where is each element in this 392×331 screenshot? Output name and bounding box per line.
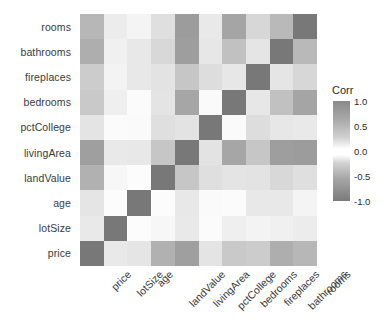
y-axis-tick-pctcollege: pctCollege bbox=[0, 115, 76, 140]
colorbar-title: Corr bbox=[332, 84, 353, 96]
heatmap-cell bbox=[199, 216, 223, 241]
heatmap-cell bbox=[199, 64, 223, 89]
y-axis-tick-bathrooms: bathrooms bbox=[0, 39, 76, 64]
x-axis-tick-rooms: rooms bbox=[324, 268, 353, 297]
heatmap-cell bbox=[127, 39, 151, 64]
heatmap-cell bbox=[222, 90, 246, 115]
y-axis-tick-lotsize: lotSize bbox=[0, 216, 76, 241]
heatmap-cell bbox=[199, 14, 223, 39]
heatmap-cell bbox=[270, 64, 294, 89]
heatmap-cell bbox=[222, 39, 246, 64]
heatmap-cell bbox=[175, 14, 199, 39]
heatmap-cell bbox=[293, 241, 317, 266]
heatmap-cell bbox=[151, 14, 175, 39]
heatmap-cell bbox=[293, 90, 317, 115]
heatmap-cell bbox=[80, 190, 104, 215]
heatmap-cell bbox=[104, 190, 128, 215]
y-axis-tick-livingarea: livingArea bbox=[0, 140, 76, 165]
heatmap-cell bbox=[80, 115, 104, 140]
heatmap-cell bbox=[80, 165, 104, 190]
heatmap-cell bbox=[270, 241, 294, 266]
heatmap-cell bbox=[270, 165, 294, 190]
heatmap-cell bbox=[151, 241, 175, 266]
colorbar-tick-labels: 1.00.50.0-0.5-1.0 bbox=[353, 101, 387, 201]
heatmap-cell bbox=[270, 190, 294, 215]
heatmap-cell bbox=[104, 140, 128, 165]
heatmap-cell bbox=[104, 90, 128, 115]
colorbar-tick: -1.0 bbox=[354, 196, 370, 207]
heatmap-cell bbox=[127, 90, 151, 115]
heatmap-cell bbox=[175, 216, 199, 241]
heatmap-cell bbox=[222, 165, 246, 190]
heatmap-cell bbox=[127, 115, 151, 140]
heatmap-cell bbox=[222, 190, 246, 215]
heatmap-cell bbox=[246, 165, 270, 190]
y-axis-tick-fireplaces: fireplaces bbox=[0, 64, 76, 89]
heatmap-cell bbox=[199, 140, 223, 165]
colorbar-tick: 1.0 bbox=[354, 96, 367, 107]
heatmap-cell bbox=[151, 216, 175, 241]
heatmap-cell bbox=[104, 241, 128, 266]
colorbar-tick: 0.0 bbox=[354, 146, 367, 157]
heatmap-cell bbox=[175, 64, 199, 89]
heatmap-cell bbox=[175, 190, 199, 215]
heatmap-cell bbox=[80, 241, 104, 266]
heatmap-cell bbox=[127, 64, 151, 89]
y-axis-tick-price: price bbox=[0, 241, 76, 266]
heatmap-cell bbox=[175, 90, 199, 115]
heatmap-cell bbox=[151, 115, 175, 140]
heatmap-cell bbox=[104, 39, 128, 64]
colorbar-gradient bbox=[333, 101, 350, 201]
heatmap-cell bbox=[104, 115, 128, 140]
heatmap-cell bbox=[270, 90, 294, 115]
heatmap-cell bbox=[80, 14, 104, 39]
heatmap-cell bbox=[246, 90, 270, 115]
heatmap-cell bbox=[199, 39, 223, 64]
heatmap-cell bbox=[270, 216, 294, 241]
heatmap-grid bbox=[80, 14, 317, 266]
heatmap-cell bbox=[199, 190, 223, 215]
y-axis-tick-bedrooms: bedrooms bbox=[0, 90, 76, 115]
heatmap-cell bbox=[80, 39, 104, 64]
y-axis-tick-landvalue: landValue bbox=[0, 165, 76, 190]
colorbar-tick: 0.5 bbox=[354, 121, 367, 132]
heatmap-cell bbox=[151, 140, 175, 165]
heatmap-cell bbox=[246, 115, 270, 140]
heatmap-cell bbox=[151, 64, 175, 89]
heatmap-cell bbox=[127, 14, 151, 39]
heatmap-cell bbox=[127, 140, 151, 165]
heatmap-cell bbox=[175, 165, 199, 190]
y-axis-labels: roomsbathroomsfireplacesbedroomspctColle… bbox=[0, 14, 76, 266]
heatmap-cell bbox=[246, 14, 270, 39]
heatmap-cell bbox=[104, 165, 128, 190]
heatmap-cell bbox=[175, 241, 199, 266]
heatmap-cell bbox=[80, 216, 104, 241]
y-axis-tick-age: age bbox=[0, 190, 76, 215]
heatmap-cell bbox=[175, 115, 199, 140]
heatmap-cell bbox=[293, 14, 317, 39]
heatmap-cell bbox=[80, 64, 104, 89]
heatmap-cell bbox=[246, 241, 270, 266]
heatmap-cell bbox=[199, 165, 223, 190]
y-axis-tick-rooms: rooms bbox=[0, 14, 76, 39]
heatmap-cell bbox=[104, 14, 128, 39]
heatmap-cell bbox=[151, 39, 175, 64]
heatmap-cell bbox=[293, 165, 317, 190]
heatmap-cell bbox=[222, 115, 246, 140]
heatmap-cell bbox=[246, 190, 270, 215]
correlation-heatmap-figure: roomsbathroomsfireplacesbedroomspctColle… bbox=[0, 0, 392, 331]
heatmap-cell bbox=[270, 140, 294, 165]
x-axis-labels: pricelotSizeagelandValuelivingAreapctCol… bbox=[80, 266, 317, 331]
heatmap-cell bbox=[151, 190, 175, 215]
heatmap-cell bbox=[199, 90, 223, 115]
heatmap-cell bbox=[175, 140, 199, 165]
heatmap-cell bbox=[104, 216, 128, 241]
heatmap-cell bbox=[127, 216, 151, 241]
heatmap-cell bbox=[127, 241, 151, 266]
heatmap-cell bbox=[246, 216, 270, 241]
heatmap-cell bbox=[199, 241, 223, 266]
heatmap-cell bbox=[246, 39, 270, 64]
heatmap-cell bbox=[293, 140, 317, 165]
heatmap-cell bbox=[222, 140, 246, 165]
heatmap-cell bbox=[270, 39, 294, 64]
